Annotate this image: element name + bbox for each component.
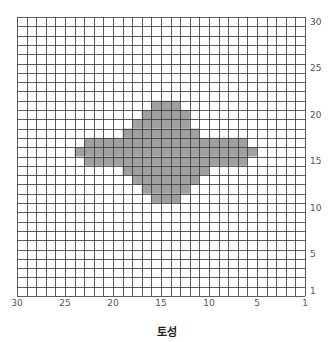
y-tick-label: 20 [310,110,321,120]
pixel-grid-chart [17,17,305,296]
filled-cells-row [75,147,257,156]
x-tick-label: 30 [11,298,22,308]
x-tick-label: 5 [254,298,260,308]
x-tick-label: 10 [203,298,214,308]
x-tick-label: 25 [59,298,70,308]
x-tick-label: 20 [107,298,118,308]
y-tick-label: 1 [310,286,316,296]
y-tick-label: 30 [310,17,321,27]
filled-cells-row [151,101,180,110]
filled-cells-row [142,110,190,119]
y-tick-label: 5 [310,249,316,259]
filled-cells-row [123,129,200,138]
filled-cells-row [84,138,247,147]
chart-title: 토성 [0,323,334,339]
x-tick-label: 1 [302,298,308,308]
filled-cells-row [151,194,180,203]
y-tick-label: 15 [310,156,321,166]
filled-cells-row [142,184,190,193]
y-tick-label: 25 [310,63,321,73]
filled-cells-row [132,119,190,128]
filled-cells-row [123,166,209,175]
x-tick-label: 15 [155,298,166,308]
y-tick-label: 10 [310,203,321,213]
